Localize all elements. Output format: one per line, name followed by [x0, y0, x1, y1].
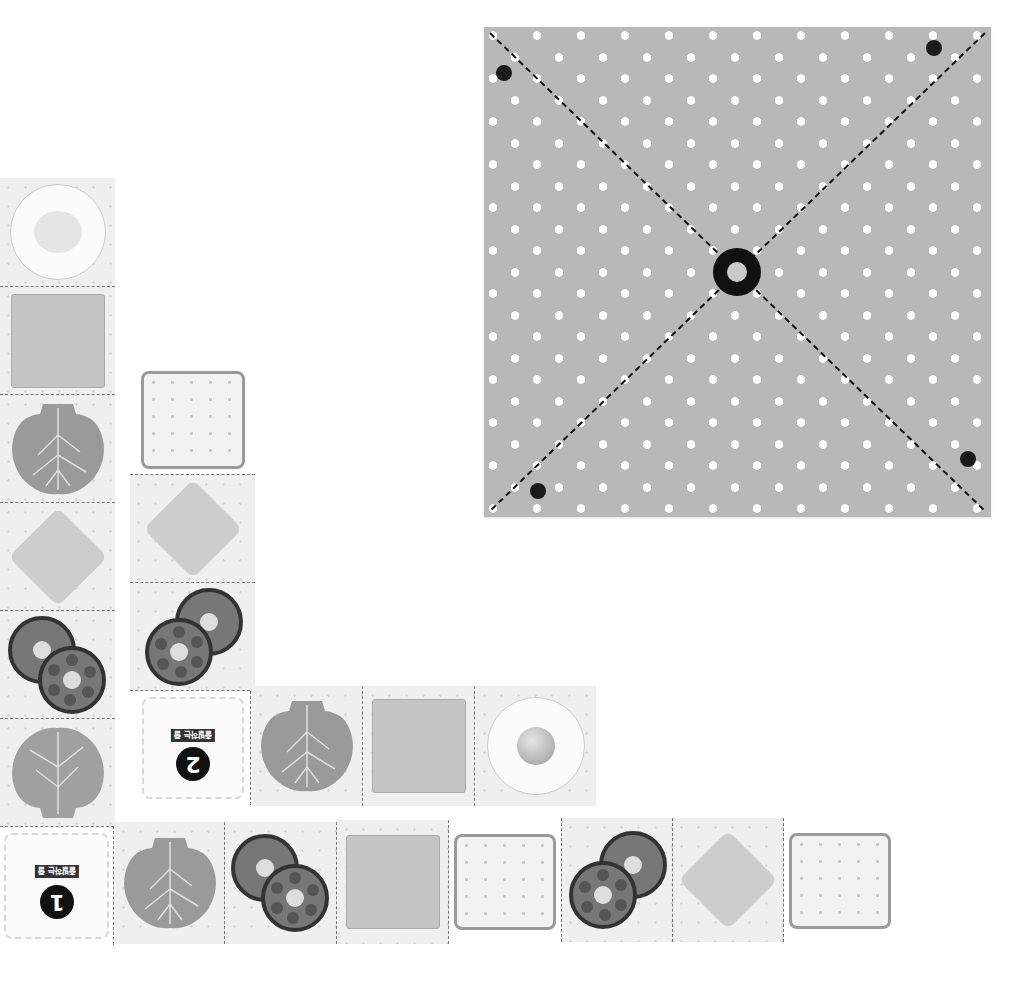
- tile-egg[interactable]: [476, 686, 596, 806]
- tile-tomato[interactable]: [0, 611, 115, 719]
- tile-cheese[interactable]: [364, 686, 475, 806]
- bread-icon: [789, 833, 891, 929]
- tile-tomato[interactable]: [130, 583, 255, 691]
- tile-tomato[interactable]: [226, 822, 337, 944]
- cheese-icon: [346, 835, 440, 929]
- peg-bottom-right[interactable]: [960, 451, 976, 467]
- bread-icon: [454, 834, 556, 930]
- bread-icon: [141, 371, 245, 469]
- tile-start-card-2[interactable]: 출발하는 줄 2: [130, 691, 251, 805]
- peg-bottom-left[interactable]: [530, 483, 546, 499]
- lettuce-icon: [257, 697, 357, 795]
- lettuce-icon: [8, 400, 108, 498]
- tile-bread[interactable]: [130, 366, 255, 474]
- tile-ham[interactable]: [673, 818, 784, 942]
- tomato-icon: [141, 588, 245, 686]
- egg-icon: [487, 697, 585, 795]
- card-label: 출발하는 줄: [35, 865, 79, 878]
- pegboard: [484, 27, 991, 517]
- tomato-icon: [229, 834, 333, 932]
- tile-lettuce[interactable]: [115, 822, 225, 944]
- tile-ham[interactable]: [0, 503, 115, 611]
- ham-icon: [8, 507, 107, 606]
- tomato-icon: [6, 616, 110, 714]
- start-card-1[interactable]: 출발하는 줄 1: [4, 833, 109, 939]
- tile-bread[interactable]: [786, 820, 894, 942]
- lettuce-icon: [8, 724, 108, 822]
- egg-icon: [10, 184, 106, 280]
- tile-lettuce[interactable]: [0, 719, 115, 826]
- center-hub[interactable]: [713, 248, 761, 296]
- ham-icon: [143, 479, 242, 578]
- peg-top-left[interactable]: [496, 65, 512, 81]
- tile-bread[interactable]: [450, 820, 560, 944]
- tile-lettuce[interactable]: [252, 686, 363, 806]
- ham-icon: [679, 831, 778, 930]
- tile-ham[interactable]: [130, 474, 255, 583]
- card-number-badge: 2: [176, 747, 210, 781]
- start-card-2[interactable]: 출발하는 줄 2: [142, 697, 244, 799]
- card-number-badge: 1: [40, 885, 74, 919]
- peg-top-right[interactable]: [926, 40, 942, 56]
- tile-cheese[interactable]: [0, 287, 115, 395]
- tile-egg[interactable]: [0, 178, 115, 287]
- tile-lettuce[interactable]: [0, 395, 115, 503]
- lettuce-icon: [120, 834, 220, 932]
- tile-start-card-1[interactable]: 출발하는 줄 1: [0, 826, 114, 945]
- card-label: 출발하는 줄: [171, 729, 215, 742]
- tile-cheese[interactable]: [338, 820, 449, 944]
- cheese-icon: [11, 294, 105, 388]
- tomato-icon: [565, 831, 669, 929]
- tile-tomato[interactable]: [561, 818, 673, 942]
- cheese-icon: [372, 699, 466, 793]
